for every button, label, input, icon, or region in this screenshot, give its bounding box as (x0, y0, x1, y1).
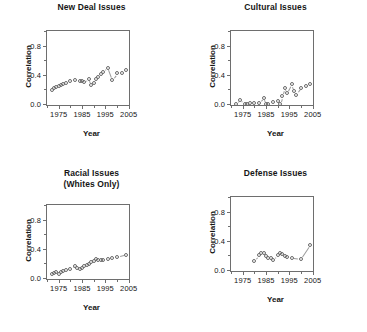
connector-line (298, 90, 300, 93)
x-axis-tick-minor (301, 271, 302, 274)
data-point (101, 258, 105, 262)
data-point (73, 78, 77, 82)
data-point (278, 102, 282, 106)
connector-line (256, 257, 258, 259)
connector-line (105, 69, 107, 71)
data-point (308, 82, 312, 86)
data-point (285, 255, 289, 259)
x-axis-title: Year (184, 295, 367, 304)
x-axis-tick-label: 1985 (73, 110, 90, 119)
connector-line (294, 258, 298, 260)
data-point (115, 255, 119, 259)
x-axis-tick-major (313, 271, 314, 275)
x-axis-tick-minor (47, 105, 48, 108)
y-axis-tick-minor (228, 226, 231, 227)
data-point (299, 86, 303, 90)
y-axis-tick-label: 0.0 (214, 100, 225, 109)
data-point (308, 243, 312, 247)
y-axis-tick-minor (44, 263, 47, 264)
y-axis-title: Correlation (208, 203, 217, 263)
connector-line (261, 99, 263, 101)
data-point (68, 267, 72, 271)
x-axis-tick-label: 1995 (97, 110, 114, 119)
panel-title: Racial Issues(Whites Only) (0, 168, 183, 190)
plot-area: 0.00.40.81975198519952005 (46, 30, 130, 106)
chart-panel: Defense Issues0.00.40.81975198519952005Y… (184, 166, 367, 332)
data-point (124, 68, 128, 72)
x-axis-tick-major (59, 279, 60, 283)
x-axis-tick-label: 1995 (281, 110, 298, 119)
data-point (262, 96, 266, 100)
panel-title-line1: Defense Issues (244, 168, 307, 178)
y-axis-tick-minor (44, 31, 47, 32)
connector-line (114, 75, 116, 78)
y-axis-tick-minor (44, 234, 47, 235)
panel-title-line1: New Deal Issues (57, 2, 125, 12)
x-axis-title: Year (0, 129, 183, 138)
y-axis-tick-minor (228, 89, 231, 90)
data-point (252, 259, 256, 263)
y-axis-tick-minor (44, 205, 47, 206)
x-axis-tick-major (105, 105, 106, 109)
y-axis-tick-major (43, 75, 47, 76)
data-point (304, 84, 308, 88)
x-axis-tick-label: 2005 (304, 110, 321, 119)
data-point (257, 101, 261, 105)
x-axis-tick-minor (254, 105, 255, 108)
data-point (68, 79, 72, 83)
connector-line (108, 70, 112, 78)
panel-title-line1: Racial Issues (64, 168, 119, 178)
y-axis-tick-major (43, 249, 47, 250)
data-point (234, 102, 238, 106)
y-axis-tick-major (227, 75, 231, 76)
x-axis-tick-label: 1985 (73, 284, 90, 293)
data-point (252, 101, 256, 105)
y-axis-tick-major (227, 212, 231, 213)
data-point (299, 257, 303, 261)
figure-panel-grid: New Deal Issues0.00.40.81975198519952005… (0, 0, 367, 332)
x-axis-tick-minor (231, 105, 232, 108)
x-axis-tick-major (82, 105, 83, 109)
connector-line (238, 101, 240, 103)
x-axis-title: Year (184, 129, 367, 138)
y-axis-tick-label: 0.0 (214, 266, 225, 275)
x-axis-tick-minor (94, 279, 95, 282)
x-axis-tick-minor (117, 279, 118, 282)
data-point (280, 94, 284, 98)
data-point (64, 268, 68, 272)
data-point (115, 71, 119, 75)
data-point (283, 86, 287, 90)
y-axis-tick-minor (228, 31, 231, 32)
data-point (106, 257, 110, 261)
data-point (101, 70, 105, 74)
x-axis-tick-label: 1985 (257, 276, 274, 285)
y-axis-title: Correlation (24, 37, 33, 97)
x-axis-tick-minor (254, 271, 255, 274)
x-axis-tick-major (59, 105, 60, 109)
data-point (294, 93, 298, 97)
data-point (110, 256, 114, 260)
x-axis-tick-label: 1995 (281, 276, 298, 285)
data-point (110, 78, 114, 82)
chart-panel: New Deal Issues0.00.40.81975198519952005… (0, 0, 183, 166)
x-axis-tick-major (129, 279, 130, 283)
data-point (285, 91, 289, 95)
x-axis-tick-major (243, 271, 244, 275)
y-axis-tick-major (227, 241, 231, 242)
x-axis-tick-minor (278, 271, 279, 274)
y-axis-tick-minor (228, 255, 231, 256)
connector-line (302, 247, 309, 257)
x-axis-tick-label: 1975 (234, 110, 251, 119)
x-axis-tick-major (289, 271, 290, 275)
data-point (82, 80, 86, 84)
x-axis-tick-label: 2005 (120, 110, 137, 119)
plot-area: 0.00.40.81975198519952005 (46, 204, 130, 280)
y-axis-title: Correlation (208, 37, 217, 97)
x-axis-tick-minor (231, 271, 232, 274)
x-axis-tick-label: 1985 (257, 110, 274, 119)
x-axis-tick-major (266, 271, 267, 275)
data-point (271, 100, 275, 104)
y-axis-tick-major (43, 46, 47, 47)
x-axis-tick-major (82, 279, 83, 283)
panel-title-line2: (Whites Only) (0, 179, 183, 190)
